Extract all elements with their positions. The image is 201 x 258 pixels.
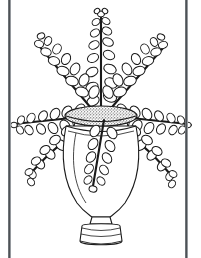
- drawing-canvas: Plant in Vase: [0, 0, 201, 258]
- frame-left-rule: [8, 0, 11, 258]
- vase-mouth-band: [65, 106, 137, 126]
- frame-right-rule: [185, 0, 188, 258]
- vase-foot: [80, 224, 122, 245]
- vase-waist: [90, 217, 112, 224]
- plant-in-vase-illustration: [0, 0, 201, 258]
